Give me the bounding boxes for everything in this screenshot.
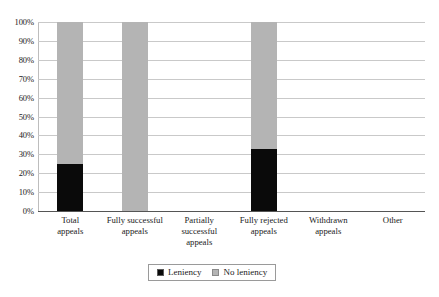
y-axis-tick-label: 0%	[0, 207, 34, 216]
bar-segment-leniency[interactable]	[251, 149, 277, 211]
bar-segment-no-leniency[interactable]	[57, 22, 83, 164]
legend-swatch-icon	[212, 269, 219, 276]
y-axis: 0%10%20%30%40%50%60%70%80%90%100%	[0, 22, 34, 211]
stacked-bar-chart: 0%10%20%30%40%50%60%70%80%90%100% Totala…	[0, 0, 439, 297]
bar[interactable]	[122, 22, 148, 211]
bar-slot	[103, 22, 168, 211]
bar[interactable]	[251, 22, 277, 211]
legend-swatch-icon	[157, 269, 164, 276]
y-axis-tick-label: 50%	[0, 112, 34, 121]
x-axis-label: Other	[355, 215, 432, 226]
x-axis-label-line: appeals	[161, 237, 238, 248]
legend-item[interactable]: Leniency	[157, 267, 201, 277]
bar-segment-no-leniency[interactable]	[251, 22, 277, 149]
plot-area	[38, 22, 425, 211]
x-axis-category-labels: TotalappealsFully successfulappealsParti…	[38, 215, 425, 261]
bar-segment-leniency[interactable]	[57, 164, 83, 211]
y-axis-tick-label: 100%	[0, 18, 34, 27]
y-axis-tick-label: 30%	[0, 150, 34, 159]
legend-item[interactable]: No leniency	[212, 267, 267, 277]
x-axis-label-line: appeals	[290, 226, 367, 237]
bar-slot	[296, 22, 361, 211]
legend-label: No leniency	[223, 267, 267, 277]
y-axis-tick-label: 70%	[0, 74, 34, 83]
bar-segment-no-leniency[interactable]	[122, 22, 148, 211]
y-axis-tick-label: 40%	[0, 131, 34, 140]
y-axis-tick-label: 90%	[0, 36, 34, 45]
x-axis-label-line: Other	[355, 215, 432, 226]
chart-legend: LeniencyNo leniency	[148, 264, 276, 281]
y-axis-tick-label: 20%	[0, 169, 34, 178]
y-axis-tick-label: 80%	[0, 55, 34, 64]
x-axis-baseline	[38, 211, 425, 212]
bar[interactable]	[57, 22, 83, 211]
legend-label: Leniency	[168, 267, 201, 277]
bar-group	[38, 22, 425, 211]
bar-slot	[232, 22, 297, 211]
bar-slot	[38, 22, 103, 211]
y-axis-tick-label: 60%	[0, 93, 34, 102]
bar-slot	[167, 22, 232, 211]
bar-slot	[361, 22, 426, 211]
y-axis-tick-label: 10%	[0, 188, 34, 197]
